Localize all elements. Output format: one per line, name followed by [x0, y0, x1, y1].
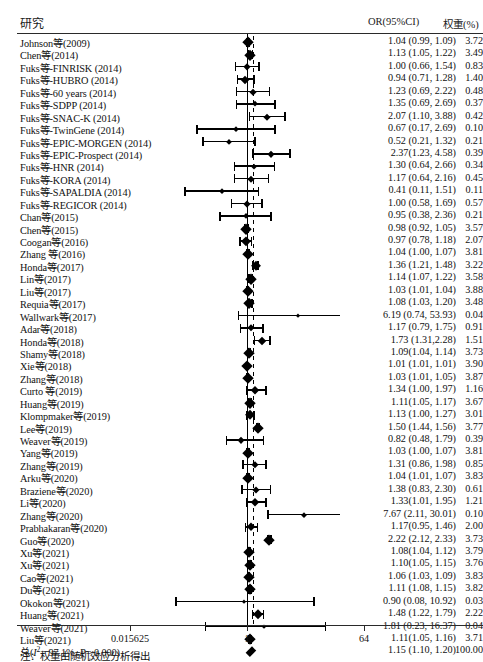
- weight-value: 0.57: [451, 197, 483, 208]
- ci-end-cap: [257, 523, 259, 532]
- axis-tick-label: 0.015625: [111, 633, 149, 644]
- effect-estimate: 1.34 (1.00, 1.97): [352, 383, 456, 394]
- ci-end-cap: [231, 199, 233, 208]
- axis-tick-label: 64: [359, 633, 369, 644]
- pooled-estimate-diamond: [246, 646, 256, 656]
- effect-estimate: 1.13 (1.05, 1.22): [352, 47, 456, 58]
- weight-value: 0.83: [451, 60, 483, 71]
- effect-estimate: 2.37(1.23, 4.58): [352, 147, 456, 158]
- point-estimate-marker: [245, 273, 256, 284]
- weight-value: 2.22: [451, 607, 483, 618]
- ci-end-cap: [313, 597, 315, 606]
- point-estimate-marker: [243, 572, 254, 583]
- ci-end-cap: [234, 174, 236, 183]
- effect-estimate: 1.00 (0.58, 1.69): [352, 197, 456, 208]
- ci-end-cap: [254, 336, 256, 345]
- confidence-interval-line: [226, 439, 263, 441]
- weight-value: 0.03: [451, 595, 483, 606]
- effect-estimate: 1.06 (1.03, 1.09): [352, 570, 456, 581]
- ci-end-cap: [236, 87, 238, 96]
- effect-estimate: 0.95 (0.38, 2.36): [352, 209, 456, 220]
- weight-value: 3.71: [451, 632, 483, 643]
- effect-estimate: 1.03 (1.01, 1.05): [352, 371, 456, 382]
- effect-estimate: 1.38 (0.83, 2.30): [352, 483, 456, 494]
- ci-end-cap: [269, 87, 271, 96]
- ci-end-cap: [284, 112, 286, 121]
- effect-estimate: 0.94 (0.71, 1.28): [352, 72, 456, 83]
- weight-value: 3.22: [451, 259, 483, 270]
- weight-value: 0.48: [451, 85, 483, 96]
- effect-estimate: 1.17 (0.79, 1.75): [352, 321, 456, 332]
- total-weight-value: 100.00: [443, 644, 483, 655]
- weight-value: 3.87: [451, 371, 483, 382]
- ci-end-cap: [258, 187, 260, 196]
- ci-end-cap: [251, 237, 253, 246]
- effect-estimate: 1.14 (1.07, 1.22): [352, 271, 456, 282]
- weight-value: 3.72: [451, 35, 483, 46]
- ci-end-cap: [236, 100, 238, 109]
- effect-estimate: 2.22 (2.12, 2.33): [352, 533, 456, 544]
- point-estimate-marker: [243, 248, 254, 259]
- ci-end-cap: [325, 622, 327, 631]
- ci-end-cap: [262, 324, 264, 333]
- effect-estimate: 1.10(1.05, 1.15): [352, 557, 456, 568]
- ci-end-cap: [249, 112, 251, 121]
- ci-end-cap: [242, 460, 244, 469]
- weight-value: 3.83: [451, 470, 483, 481]
- ci-end-cap: [270, 485, 272, 494]
- point-estimate-marker: [243, 37, 254, 48]
- weight-value: 3.81: [451, 445, 483, 456]
- weight-value: 3.67: [451, 396, 483, 407]
- axis-tick: [247, 626, 248, 631]
- effect-estimate: 1.30 (0.64, 2.66): [352, 159, 456, 170]
- forest-rows: Johnson等(2009)1.04 (0.99, 1.09)3.72Chen等…: [0, 36, 483, 658]
- point-estimate-marker: [244, 584, 255, 595]
- effect-estimate: 1.11(1.05, 1.17): [352, 396, 456, 407]
- weight-value: 3.76: [451, 557, 483, 568]
- effect-estimate: 1.35 (0.69, 2.69): [352, 97, 456, 108]
- ci-end-cap: [274, 162, 276, 171]
- effect-estimate: 1.13 (1.00, 1.27): [352, 408, 456, 419]
- point-estimate-marker: [264, 534, 275, 545]
- weight-value: 1.51: [451, 334, 483, 345]
- point-estimate-marker: [242, 447, 253, 458]
- point-estimate-marker: [251, 498, 259, 506]
- ci-end-cap: [237, 75, 239, 84]
- forest-plot: 研究 OR(95%CI) 权重(%) Johnson等(2009)1.04 (0…: [0, 0, 483, 662]
- ci-end-cap: [289, 149, 291, 158]
- point-estimate-marker: [242, 237, 251, 246]
- point-estimate-marker: [244, 348, 255, 359]
- point-estimate-marker: [242, 285, 253, 296]
- column-header-study: 研究: [20, 14, 44, 32]
- effect-estimate: 1.11 (1.08, 1.15): [352, 582, 456, 593]
- weight-value: 0.04: [451, 309, 483, 320]
- point-estimate-marker: [253, 610, 262, 619]
- point-estimate-marker: [268, 151, 274, 157]
- effect-estimate: 1.50 (1.44, 1.56): [352, 421, 456, 432]
- ci-end-cap: [238, 311, 240, 320]
- point-estimate-marker: [244, 200, 251, 207]
- effect-estimate: 0.90 (0.08, 10.92): [352, 595, 456, 606]
- effect-estimate: 1.73 (1.31,2.28): [352, 334, 456, 345]
- weight-value: 3.88: [451, 284, 483, 295]
- effect-estimate: 7.67 (2.11, 30.01): [352, 508, 456, 519]
- weight-value: 1.40: [451, 72, 483, 83]
- point-estimate-marker: [248, 325, 256, 333]
- ci-end-cap: [265, 460, 267, 469]
- effect-estimate: 0.97 (0.78, 1.18): [352, 234, 456, 245]
- point-estimate-marker: [251, 461, 258, 468]
- weight-value: 3.90: [451, 358, 483, 369]
- ci-end-cap: [235, 62, 237, 71]
- ci-end-cap: [268, 174, 270, 183]
- weight-value: 3.01: [451, 408, 483, 419]
- effect-estimate: 6.19 (0.74, 53.93): [352, 309, 456, 320]
- header-divider: [17, 33, 483, 34]
- weight-value: 0.91: [451, 321, 483, 332]
- ci-end-cap: [175, 597, 177, 606]
- ci-end-cap: [234, 162, 236, 171]
- point-estimate-marker: [244, 559, 255, 570]
- effect-estimate: 1.01 (1.01, 1.01): [352, 358, 456, 369]
- ci-end-cap: [246, 386, 248, 395]
- effect-estimate: 1.33(1.01, 1.95): [352, 495, 456, 506]
- ci-end-cap: [253, 75, 255, 84]
